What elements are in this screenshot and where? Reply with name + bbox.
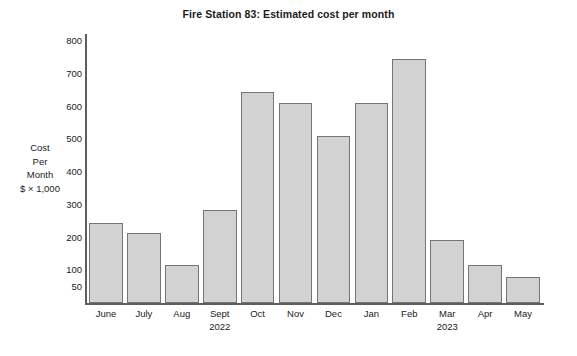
x-tick-label: Dec <box>315 308 353 321</box>
y-tick-label: 50 <box>36 282 82 292</box>
bar[interactable] <box>392 59 426 303</box>
bar[interactable] <box>468 265 502 303</box>
y-tick-label: 500 <box>36 134 82 144</box>
bar[interactable] <box>506 277 540 303</box>
x-tick-label-line: Nov <box>277 308 315 321</box>
x-tick-label: June <box>87 308 125 321</box>
bar-slot <box>392 41 426 303</box>
x-tick-label-line: June <box>87 308 125 321</box>
x-tick-label-line: July <box>125 308 163 321</box>
x-tick-label-line: Apr <box>466 308 504 321</box>
x-tick-label: Sept2022 <box>201 308 239 333</box>
x-tick-label: Mar2023 <box>428 308 466 333</box>
bar-slot <box>430 41 464 303</box>
bar-series <box>87 41 542 303</box>
y-tick-label: 600 <box>36 102 82 112</box>
bar-slot <box>127 41 161 303</box>
bar[interactable] <box>241 92 275 303</box>
x-tick-label: Aug <box>163 308 201 321</box>
bar-slot <box>89 41 123 303</box>
bar-slot <box>355 41 389 303</box>
x-tick-label-line: May <box>504 308 542 321</box>
bar[interactable] <box>203 210 237 303</box>
y-axis-tick-labels: 80070060050040030020010050 <box>30 0 82 356</box>
bar[interactable] <box>430 240 464 303</box>
bar-slot <box>203 41 237 303</box>
x-tick-label-line: 2022 <box>201 321 239 334</box>
x-tick-label-line: Oct <box>239 308 277 321</box>
x-tick-label: Jan <box>352 308 390 321</box>
x-tick-label: Apr <box>466 308 504 321</box>
bar[interactable] <box>279 103 313 303</box>
bar[interactable] <box>165 265 199 303</box>
bar[interactable] <box>127 233 161 303</box>
x-tick-label: Nov <box>277 308 315 321</box>
bar-chart: Fire Station 83: Estimated cost per mont… <box>0 0 577 356</box>
x-tick-label: Feb <box>390 308 428 321</box>
bar-slot <box>165 41 199 303</box>
bar[interactable] <box>355 103 389 303</box>
y-tick-label: 300 <box>36 200 82 210</box>
x-tick-label-line: Jan <box>352 308 390 321</box>
y-tick-label: 700 <box>36 69 82 79</box>
x-tick-label-line: Sept <box>201 308 239 321</box>
x-tick-label-line: Aug <box>163 308 201 321</box>
bar[interactable] <box>317 136 351 303</box>
x-tick-label-line: Feb <box>390 308 428 321</box>
y-tick-label: 100 <box>36 265 82 275</box>
x-tick-label-line: 2023 <box>428 321 466 334</box>
x-tick-label: July <box>125 308 163 321</box>
x-tick-label-line: Dec <box>315 308 353 321</box>
chart-title: Fire Station 83: Estimated cost per mont… <box>0 8 577 20</box>
x-tick-label-line: Mar <box>428 308 466 321</box>
y-tick-label: 800 <box>36 36 82 46</box>
y-tick-label: 200 <box>36 233 82 243</box>
x-tick-label: Oct <box>239 308 277 321</box>
x-axis-line <box>85 303 544 305</box>
x-axis-tick-labels: JuneJulyAugSept2022OctNovDecJanFebMar202… <box>87 308 542 354</box>
bar-slot <box>241 41 275 303</box>
bar-slot <box>506 41 540 303</box>
x-tick-label: May <box>504 308 542 321</box>
bar-slot <box>279 41 313 303</box>
y-tick-label: 400 <box>36 167 82 177</box>
bar[interactable] <box>89 223 123 303</box>
bar-slot <box>317 41 351 303</box>
bar-slot <box>468 41 502 303</box>
